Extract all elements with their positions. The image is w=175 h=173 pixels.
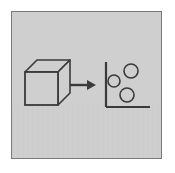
scatter-point-3 [120, 88, 134, 102]
scatter-point-1 [108, 75, 120, 87]
cube-front-face [25, 72, 58, 105]
figure-root [0, 0, 175, 173]
arrow-head [87, 80, 96, 90]
scatter-point-2 [124, 64, 138, 78]
arrow-right-icon [70, 80, 96, 90]
cube-icon [25, 60, 70, 105]
plot-points [108, 64, 138, 102]
diagram-svg [0, 0, 175, 173]
